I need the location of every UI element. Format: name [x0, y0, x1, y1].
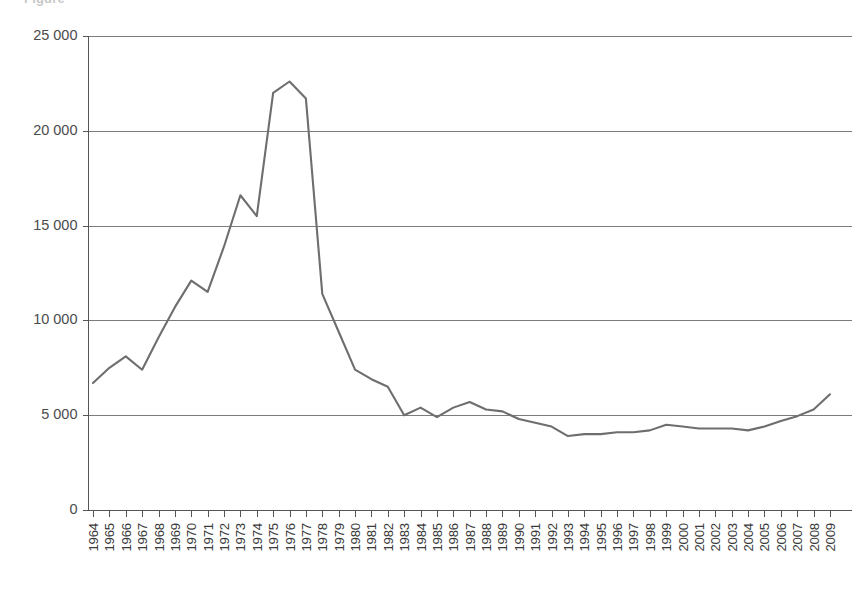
- x-tick-label: 1989: [495, 523, 510, 552]
- x-tick-label: 2004: [741, 523, 756, 552]
- x-tick-label: 2001: [692, 523, 707, 552]
- x-tick-label: 1970: [184, 523, 199, 552]
- x-tick-label: 2003: [725, 523, 740, 552]
- x-tick-label: 2007: [790, 523, 805, 552]
- x-tick-label: 2002: [708, 523, 723, 552]
- x-tick-label: 1971: [201, 523, 216, 552]
- x-tick-label: 1972: [217, 523, 232, 552]
- x-tick-label: 1994: [577, 523, 592, 552]
- x-tick-label: 1984: [414, 523, 429, 552]
- x-tick-label: 1978: [315, 523, 330, 552]
- x-tick-label: 1967: [135, 523, 150, 552]
- x-tick-label: 1965: [102, 523, 117, 552]
- axes-group: [89, 36, 853, 511]
- data-line-series-1: [93, 82, 830, 437]
- x-tick-label: 1973: [233, 523, 248, 552]
- x-tick-label: 2005: [757, 523, 772, 552]
- x-tick-label: 1977: [299, 523, 314, 552]
- x-tick-label: 1995: [594, 523, 609, 552]
- x-tick-label: 1985: [430, 523, 445, 552]
- x-tick-label: 1968: [152, 523, 167, 552]
- x-tick-label: 1966: [119, 523, 134, 552]
- x-tick-label: 1999: [659, 523, 674, 552]
- x-tick-label: 1996: [610, 523, 625, 552]
- x-tick-label: 1983: [397, 523, 412, 552]
- x-tick-label: 1969: [168, 523, 183, 552]
- x-tick-label: 1993: [561, 523, 576, 552]
- x-tick-label: 1964: [86, 523, 101, 552]
- y-axis-ticks-group: 05 00010 00015 00020 00025 000: [33, 27, 88, 517]
- x-tick-label: 1976: [283, 523, 298, 552]
- gridlines-group: [89, 37, 853, 416]
- chart-figure: Figure 05 00010 00015 00020 00025 000 19…: [0, 0, 865, 598]
- x-tick-label: 2009: [823, 523, 838, 552]
- x-tick-label: 1986: [446, 523, 461, 552]
- x-tick-label: 2006: [774, 523, 789, 552]
- data-series-group: [93, 82, 830, 437]
- y-tick-label: 25 000: [33, 27, 77, 43]
- y-tick-label: 5 000: [41, 406, 77, 422]
- x-tick-label: 1990: [512, 523, 527, 552]
- x-tick-label: 1982: [381, 523, 396, 552]
- x-tick-label: 1981: [364, 523, 379, 552]
- y-tick-label: 0: [69, 501, 77, 517]
- x-tick-label: 1975: [266, 523, 281, 552]
- x-tick-label: 2008: [807, 523, 822, 552]
- y-tick-label: 10 000: [33, 311, 77, 327]
- line-chart-svg: 05 00010 00015 00020 00025 000 196419651…: [0, 0, 865, 598]
- x-tick-label: 1992: [545, 523, 560, 552]
- x-tick-label: 1980: [348, 523, 363, 552]
- x-tick-label: 1988: [479, 523, 494, 552]
- x-tick-label: 1991: [528, 523, 543, 552]
- x-tick-label: 1998: [643, 523, 658, 552]
- x-tick-label: 1979: [332, 523, 347, 552]
- x-axis-labels-group: 1964196519661967196819691970197119721973…: [86, 523, 838, 552]
- x-tick-label: 2000: [676, 523, 691, 552]
- y-tick-label: 20 000: [33, 122, 77, 138]
- x-tick-label: 1997: [626, 523, 641, 552]
- y-tick-label: 15 000: [33, 217, 77, 233]
- x-tick-label: 1987: [463, 523, 478, 552]
- x-tick-label: 1974: [250, 523, 265, 552]
